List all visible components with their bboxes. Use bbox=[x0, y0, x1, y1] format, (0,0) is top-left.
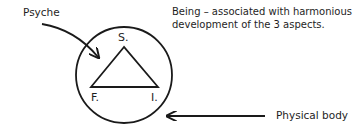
being-description-line-1: Being – associated with harmonious bbox=[172, 5, 357, 18]
physical-body-label: Physical body bbox=[276, 109, 348, 122]
psyche-triangle bbox=[91, 47, 158, 87]
psyche-label: Psyche bbox=[23, 6, 60, 19]
being-description-line-2: development of the 3 aspects. bbox=[172, 18, 357, 31]
being-description: Being – associated with harmonious devel… bbox=[172, 5, 357, 31]
vertex-label-s: S. bbox=[118, 32, 128, 44]
vertex-label-f: F. bbox=[91, 92, 99, 104]
vertex-label-i: I. bbox=[151, 92, 158, 104]
